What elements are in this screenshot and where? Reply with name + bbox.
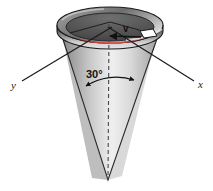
velocity-vector-arrow	[110, 36, 141, 37]
angle-label-30deg: 30°	[86, 68, 103, 80]
cone-body-group	[60, 30, 160, 180]
velocity-vector-label: v	[123, 23, 129, 34]
cone-diagram-svg: y x v 30°	[0, 0, 213, 191]
axis-label-x: x	[197, 78, 203, 90]
axis-label-y: y	[10, 79, 16, 91]
cone-body	[60, 30, 160, 180]
cone-diagram-figure: y x v 30°	[0, 0, 213, 191]
